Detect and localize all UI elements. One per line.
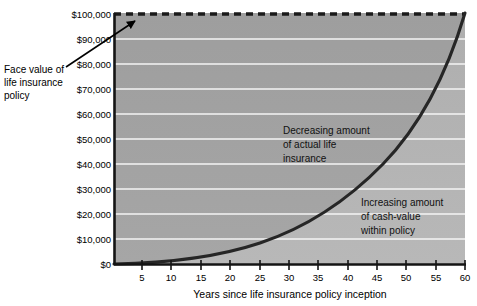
x-tick-label-40: 40 — [343, 272, 354, 283]
face-value-annotation-line1: Face value of — [4, 64, 64, 75]
x-tick-label-55: 55 — [431, 272, 442, 283]
decreasing-annotation-line2: of actual life — [283, 139, 337, 150]
y-tick-label-50000: $50,000 — [77, 134, 111, 145]
y-tick-label-40000: $40,000 — [77, 159, 111, 170]
increasing-annotation-line1: Increasing amount — [361, 197, 443, 208]
y-axis-tick-labels: $100,000 $90,000 $80,000 $70,000 $60,000… — [71, 9, 111, 270]
chart-page: $100,000 $90,000 $80,000 $70,000 $60,000… — [0, 0, 477, 306]
life-insurance-chart: $100,000 $90,000 $80,000 $70,000 $60,000… — [0, 0, 477, 306]
x-axis-title: Years since life insurance policy incept… — [193, 288, 387, 300]
face-value-annotation: Face value of life insurance policy — [4, 64, 64, 101]
x-axis-tick-labels: 5 10 15 20 25 30 35 40 45 50 55 60 — [139, 272, 470, 283]
decreasing-annotation-line3: insurance — [283, 153, 327, 164]
face-value-annotation-line3: policy — [4, 90, 30, 101]
increasing-annotation-line3: within policy — [360, 225, 415, 236]
x-tick-label-15: 15 — [196, 272, 207, 283]
face-value-annotation-line2: life insurance — [4, 77, 63, 88]
y-tick-label-0: $0 — [100, 259, 111, 270]
decreasing-annotation-line1: Decreasing amount — [283, 125, 370, 136]
y-tick-label-20000: $20,000 — [77, 209, 111, 220]
x-tick-label-45: 45 — [372, 272, 383, 283]
x-tick-label-25: 25 — [255, 272, 266, 283]
y-tick-label-60000: $60,000 — [77, 109, 111, 120]
increasing-annotation-line2: of cash-value — [361, 211, 421, 222]
y-tick-label-10000: $10,000 — [77, 234, 111, 245]
x-tick-label-10: 10 — [166, 272, 177, 283]
x-tick-label-50: 50 — [401, 272, 412, 283]
x-tick-label-60: 60 — [460, 272, 471, 283]
y-tick-label-30000: $30,000 — [77, 184, 111, 195]
x-tick-label-5: 5 — [139, 272, 144, 283]
x-tick-label-35: 35 — [313, 272, 324, 283]
y-tick-label-80000: $80,000 — [77, 59, 111, 70]
x-tick-label-30: 30 — [284, 272, 295, 283]
x-tick-label-20: 20 — [225, 272, 236, 283]
y-tick-label-100000: $100,000 — [71, 9, 111, 20]
y-tick-label-70000: $70,000 — [77, 84, 111, 95]
y-tick-label-90000: $90,000 — [77, 34, 111, 45]
